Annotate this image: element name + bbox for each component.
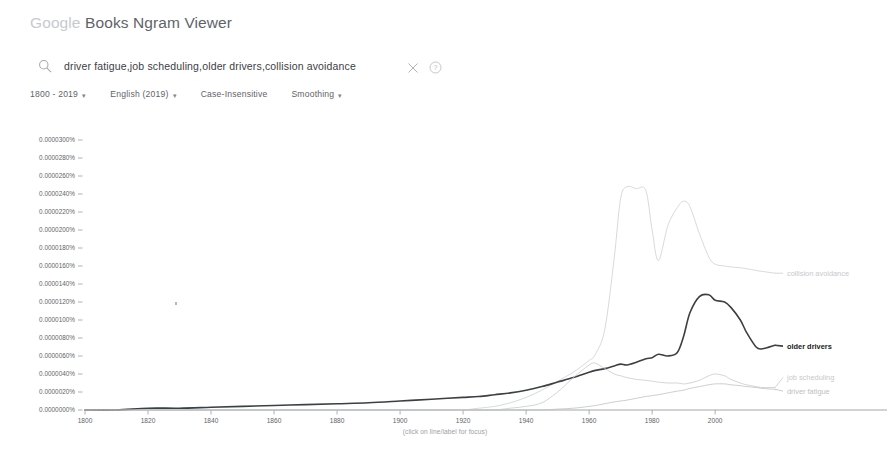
x-axis-tick-label: 1960 — [582, 417, 597, 424]
y-axis-tick-label: 0.0000220% — [39, 208, 75, 215]
y-axis-tick-label: 0.0000040% — [39, 370, 75, 377]
series-label-connector — [775, 345, 783, 346]
y-axis-tick-label: 0.0000100% — [39, 316, 75, 323]
series-label[interactable]: older drivers — [787, 342, 832, 351]
query-options-row: 1800 - 2019 ▾ English (2019) ▾ Case-Inse… — [30, 89, 343, 99]
x-axis-tick-label: 1980 — [645, 417, 660, 424]
search-icon — [38, 59, 52, 73]
date-range-selector[interactable]: 1800 - 2019 ▾ — [30, 89, 86, 99]
corpus-selector[interactable]: English (2019) ▾ — [110, 89, 176, 99]
series-line[interactable] — [85, 294, 775, 410]
corpus-label: English (2019) — [110, 89, 168, 99]
chart-footnote: (click on line/label for focus) — [0, 428, 890, 435]
y-axis-tick-label: 0.0000280% — [39, 154, 75, 161]
y-axis-tick-label: 0.0000240% — [39, 190, 75, 197]
chart-canvas[interactable]: 0.0000000%0.0000020%0.0000040%0.0000060%… — [0, 118, 890, 438]
y-axis-tick-label: 0.0000000% — [39, 406, 75, 413]
chevron-down-icon: ▾ — [82, 92, 86, 99]
smoothing-label: Smoothing — [291, 89, 334, 99]
y-axis-tick-label: 0.0000060% — [39, 352, 75, 359]
search-bar: ? — [28, 52, 448, 80]
y-axis-tick-label: 0.0000120% — [39, 298, 75, 305]
y-axis-tick-label: 0.0000300% — [39, 136, 75, 143]
help-circle-icon[interactable]: ? — [429, 60, 442, 73]
series-line[interactable] — [85, 186, 775, 410]
y-axis-tick-label: 0.0000020% — [39, 388, 75, 395]
date-range-label: 1800 - 2019 — [30, 89, 78, 99]
series-label[interactable]: collision avoidance — [787, 269, 849, 278]
case-sensitivity-toggle[interactable]: Case-Insensitive — [201, 89, 268, 99]
series-label-connector — [775, 378, 783, 388]
product-name: Books Ngram Viewer — [81, 14, 233, 31]
page-title: Google Books Ngram Viewer — [30, 14, 232, 32]
x-axis-tick-label: 1800 — [78, 417, 93, 424]
x-axis-tick-label: 1940 — [519, 417, 534, 424]
chevron-down-icon: ▾ — [173, 92, 177, 99]
chevron-down-icon: ▾ — [338, 92, 342, 99]
y-axis-tick-label: 0.0000140% — [39, 280, 75, 287]
x-axis-tick-label: 1900 — [393, 417, 408, 424]
case-sensitivity-label: Case-Insensitive — [201, 89, 268, 99]
series-label[interactable]: driver fatigue — [787, 387, 830, 396]
series-line[interactable] — [85, 384, 775, 410]
x-axis-tick-label: 1820 — [141, 417, 156, 424]
y-axis-tick-label: 0.0000080% — [39, 334, 75, 341]
series-label[interactable]: job scheduling — [786, 373, 834, 382]
x-axis-tick-label: 2000 — [708, 417, 723, 424]
y-axis-tick-label: 0.0000200% — [39, 226, 75, 233]
y-axis-tick-label: 0.0000260% — [39, 172, 75, 179]
ngram-viewer-app: Google Books Ngram Viewer ? 1800 - 2019 — [0, 0, 890, 455]
x-axis-tick-label: 1840 — [204, 417, 219, 424]
series-label-connector — [775, 389, 783, 391]
ngram-chart[interactable]: 0.0000000%0.0000020%0.0000040%0.0000060%… — [0, 118, 890, 438]
series-line[interactable] — [85, 363, 775, 410]
smoothing-selector[interactable]: Smoothing ▾ — [291, 89, 342, 99]
brand-wordmark: Google — [30, 14, 81, 31]
x-axis-tick-label: 1880 — [330, 417, 345, 424]
chart-artifact-speck — [175, 302, 177, 305]
y-axis-tick-label: 0.0000160% — [39, 262, 75, 269]
search-input[interactable] — [64, 57, 407, 75]
close-icon[interactable] — [407, 60, 419, 72]
y-axis-tick-label: 0.0000180% — [39, 244, 75, 251]
x-axis-tick-label: 1920 — [456, 417, 471, 424]
x-axis-tick-label: 1860 — [267, 417, 282, 424]
svg-text:?: ? — [433, 63, 437, 72]
